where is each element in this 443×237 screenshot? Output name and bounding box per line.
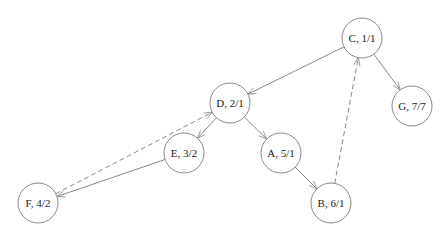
edge-c-to-g bbox=[374, 54, 400, 90]
graph-canvas: C, 1/1G, 7/7D, 2/1E, 3/2A, 5/1F, 4/2B, 6… bbox=[0, 0, 443, 237]
edge-c-to-d bbox=[248, 47, 344, 94]
nodes-layer: C, 1/1G, 7/7D, 2/1E, 3/2A, 5/1F, 4/2B, 6… bbox=[18, 18, 432, 223]
edge-a-to-b bbox=[295, 167, 317, 189]
edge-b-to-c bbox=[335, 58, 359, 184]
node-e: E, 3/2 bbox=[164, 133, 204, 173]
node-f: F, 4/2 bbox=[18, 183, 58, 223]
edge-d-to-a bbox=[244, 117, 266, 139]
node-c: C, 1/1 bbox=[342, 18, 382, 58]
node-b: B, 6/1 bbox=[311, 183, 351, 223]
node-d: D, 2/1 bbox=[210, 83, 250, 123]
node-g: G, 7/7 bbox=[392, 86, 432, 126]
node-label: E, 3/2 bbox=[171, 147, 197, 159]
node-label: G, 7/7 bbox=[398, 100, 426, 112]
node-label: A, 5/1 bbox=[267, 147, 295, 159]
edge-e-to-f bbox=[57, 159, 165, 196]
edge-d-to-e bbox=[198, 118, 217, 139]
node-a: A, 5/1 bbox=[261, 133, 301, 173]
node-label: D, 2/1 bbox=[216, 97, 244, 109]
node-label: B, 6/1 bbox=[318, 197, 345, 209]
node-label: F, 4/2 bbox=[26, 197, 51, 209]
node-label: C, 1/1 bbox=[349, 32, 376, 44]
